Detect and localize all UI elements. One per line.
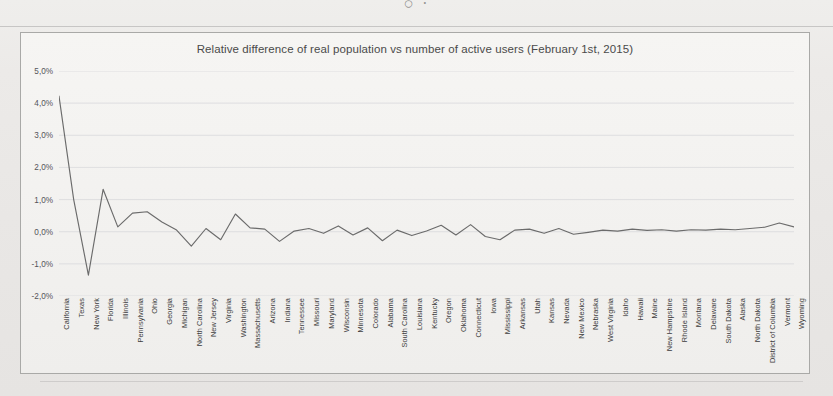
x-axis-tick-label: Georgia	[165, 298, 174, 325]
x-axis-tick-label: Alabama	[386, 298, 395, 328]
x-axis-tick-label: California	[62, 298, 71, 330]
scanned-page: ○ · Relative difference of real populati…	[0, 0, 833, 396]
x-axis-tick-label: Maine	[650, 298, 659, 318]
x-axis-tick-label: Minnesota	[356, 298, 365, 333]
x-axis-tick-label: North Dakota	[753, 298, 762, 342]
x-axis-tick-label: Delaware	[709, 298, 718, 330]
x-axis-tick-label: Wyoming	[797, 298, 806, 329]
x-axis-tick-label: Nebraska	[591, 298, 600, 330]
y-axis-tick-label: 4,0%	[34, 99, 53, 108]
x-axis-tick-label: Illinois	[121, 298, 130, 319]
chart-svg	[59, 71, 794, 296]
x-axis-tick-label: Maryland	[327, 298, 336, 329]
y-axis-tick-label: -1,0%	[32, 259, 53, 268]
x-axis-tick-label: Ohio	[150, 298, 159, 314]
x-axis-tick-label: South Dakota	[724, 298, 733, 343]
chart-title: Relative difference of real population v…	[21, 43, 809, 55]
x-axis-tick-label: West Virginia	[606, 298, 615, 342]
x-axis-tick-label: North Carolina	[195, 298, 204, 346]
x-axis-tick-label: Nevada	[562, 298, 571, 324]
x-axis-tick-label: Rhode Island	[680, 298, 689, 342]
page-top-artifact: ○ ·	[0, 0, 833, 16]
x-axis-tick-label: Utah	[533, 298, 542, 314]
y-axis-tick-label: 3,0%	[34, 131, 53, 140]
x-axis-tick-label: Alaska	[738, 298, 747, 320]
x-axis-tick-label: Wisconsin	[342, 298, 351, 332]
x-axis-labels: CaliforniaTexasNew YorkFloridaIllinoisPe…	[59, 298, 794, 396]
x-axis-tick-label: Idaho	[621, 298, 630, 317]
x-axis-tick-label: Kansas	[547, 298, 556, 323]
x-axis-tick-label: Indiana	[283, 298, 292, 323]
x-axis-tick-label: Mississippi	[503, 298, 512, 334]
x-axis-tick-label: New Jersey	[209, 298, 218, 337]
x-axis-tick-label: Virginia	[224, 298, 233, 323]
x-axis-tick-label: Kentucky	[430, 298, 439, 329]
x-axis-tick-label: Missouri	[312, 298, 321, 326]
chart-frame: Relative difference of real population v…	[20, 32, 810, 374]
x-axis-tick-label: Michigan	[180, 298, 189, 328]
plot-area: 5,0%4,0%3,0%2,0%1,0%0,0%-1,0%-2,0%	[59, 71, 794, 296]
gridlines	[59, 71, 794, 296]
x-axis-tick-label: South Carolina	[400, 298, 409, 348]
y-axis-tick-label: 0,0%	[34, 227, 53, 236]
x-axis-tick-label: Iowa	[489, 298, 498, 314]
x-axis-tick-label: Louisiana	[415, 298, 424, 330]
x-axis-tick-label: Colorado	[371, 298, 380, 328]
x-axis-tick-label: New Hampshire	[665, 298, 674, 351]
x-axis-tick-label: District of Columbia	[768, 298, 777, 363]
x-axis-tick-label: New York	[92, 298, 101, 330]
x-axis-tick-label: Arizona	[268, 298, 277, 323]
x-axis-tick-label: Connecticut	[474, 298, 483, 338]
x-axis-tick-label: New Mexico	[577, 298, 586, 339]
y-axis-tick-label: -2,0%	[32, 292, 53, 301]
x-axis-tick-label: Washington	[239, 298, 248, 337]
x-axis-tick-label: Texas	[77, 298, 86, 318]
data-line-series	[59, 96, 794, 275]
x-axis-tick-label: Montana	[694, 298, 703, 327]
x-axis-tick-label: Massachusetts	[253, 298, 262, 348]
x-axis-tick-label: Tennessee	[297, 298, 306, 334]
x-axis-tick-label: Florida	[106, 298, 115, 321]
x-axis-tick-label: Hawaii	[636, 298, 645, 320]
x-axis-tick-label: Vermont	[783, 298, 792, 326]
x-axis-tick-label: Arkansas	[518, 298, 527, 329]
x-axis-tick-label: Pennsylvania	[136, 298, 145, 343]
y-axis-tick-label: 5,0%	[34, 67, 53, 76]
y-axis-tick-label: 1,0%	[34, 195, 53, 204]
x-axis-tick-label: Oregon	[444, 298, 453, 323]
x-axis-tick-label: Oklahoma	[459, 298, 468, 332]
y-axis-tick-label: 2,0%	[34, 163, 53, 172]
